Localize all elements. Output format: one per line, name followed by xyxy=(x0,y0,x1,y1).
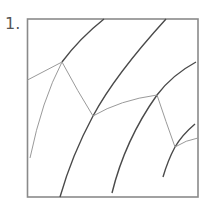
thin-line-left-edge-to-junction xyxy=(28,62,63,80)
square-frame xyxy=(28,19,199,197)
dark-curve-3 xyxy=(112,62,196,193)
thin-line-junction-2-to-3 xyxy=(93,95,157,116)
dark-curve-4 xyxy=(163,124,195,177)
thin-line-junction-3-to-4 xyxy=(157,95,175,147)
thin-line-junction-1-to-2 xyxy=(62,62,93,116)
dark-curve-1 xyxy=(62,19,104,62)
diagram-canvas xyxy=(0,0,212,205)
